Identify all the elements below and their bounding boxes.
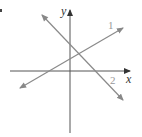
line-1 (20, 28, 123, 88)
corner-mark (0, 9, 2, 12)
x-axis-label: x (125, 72, 132, 86)
line-1-label: 1 (108, 19, 114, 31)
coordinate-diagram: y x 1 2 (0, 0, 142, 137)
line-2-label: 2 (110, 74, 116, 86)
y-axis-label: y (60, 4, 67, 18)
